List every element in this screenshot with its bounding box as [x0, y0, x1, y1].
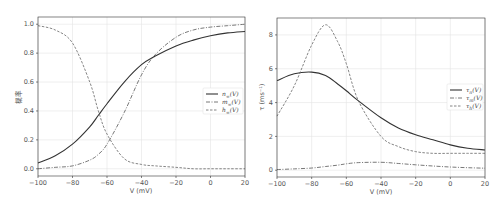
y-axis-label: 概率 [14, 90, 23, 104]
x-tick-label: −20 [409, 180, 423, 188]
y-tick-label: 0.6 [24, 78, 34, 86]
y-tick-label: 2 [269, 133, 273, 141]
figure: −100−80−60−40−20020 0.00.20.40.60.81.0 V… [0, 0, 503, 207]
x-tick-label: −80 [66, 179, 80, 187]
legend: n∞(V)m∞(V)h∞(V) [203, 88, 243, 115]
y-axis-ticks: 0.00.20.40.60.81.0 [24, 20, 38, 173]
chart-time-constants: −100−80−60−40−20020 02468 V (mV) τ (ms⁻¹… [258, 18, 489, 196]
x-tick-label: −100 [268, 180, 286, 188]
y-tick-label: 0.4 [24, 107, 34, 115]
legend: τn(V)τm(V)τh(V) [447, 84, 483, 111]
y-tick-label: 6 [269, 65, 273, 73]
x-axis-label: V (mV) [370, 188, 392, 196]
x-tick-label: −60 [100, 179, 114, 187]
x-tick-label: −20 [169, 179, 183, 187]
x-axis-ticks: −100−80−60−40−20020 [29, 176, 249, 187]
y-tick-label: 1.0 [24, 20, 34, 28]
x-tick-label: 20 [241, 179, 249, 187]
x-axis-ticks: −100−80−60−40−20020 [268, 177, 489, 188]
y-tick-label: 0.0 [24, 165, 34, 173]
x-tick-label: −40 [374, 180, 388, 188]
x-tick-label: −100 [29, 179, 47, 187]
y-tick-label: 0.2 [24, 136, 34, 144]
x-tick-label: 0 [448, 180, 452, 188]
y-axis-ticks: 02468 [269, 31, 277, 174]
chart-steady-state: −100−80−60−40−20020 0.00.20.40.60.81.0 V… [14, 17, 249, 195]
y-tick-label: 8 [269, 31, 273, 39]
x-tick-label: 0 [208, 179, 212, 187]
y-tick-label: 4 [269, 99, 273, 107]
x-tick-label: −80 [305, 180, 319, 188]
y-axis-label: τ (ms⁻¹) [258, 84, 266, 111]
y-tick-label: 0 [269, 166, 273, 174]
x-tick-label: −40 [135, 179, 149, 187]
x-axis-label: V (mV) [130, 187, 152, 195]
x-tick-label: 20 [481, 180, 489, 188]
y-tick-label: 0.8 [24, 49, 34, 57]
x-tick-label: −60 [339, 180, 353, 188]
